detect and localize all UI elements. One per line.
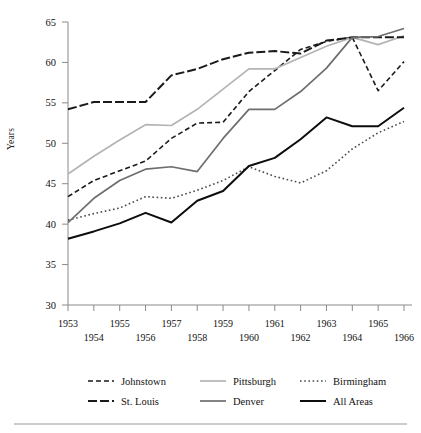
x-tick-label: 1962 <box>291 332 311 343</box>
x-tick-label: 1964 <box>342 332 362 343</box>
y-tick-label: 65 <box>46 17 57 28</box>
chart-legend: JohnstownPittsburghBirminghamSt. LouisDe… <box>88 376 386 407</box>
legend-label-st-louis: St. Louis <box>121 396 159 407</box>
series-line-st-louis <box>68 37 404 109</box>
y-tick-label: 35 <box>46 259 57 270</box>
y-tick-label: 50 <box>46 138 57 149</box>
x-axis-labels: 1953195419551956195719581959196019611962… <box>58 318 414 343</box>
x-tick-label: 1963 <box>316 318 336 329</box>
x-tick-label: 1959 <box>213 318 233 329</box>
x-tick-label: 1965 <box>368 318 388 329</box>
x-tick-label: 1954 <box>84 332 104 343</box>
x-tick-label: 1958 <box>187 332 207 343</box>
legend-label-all-areas: All Areas <box>333 396 373 407</box>
legend-label-denver: Denver <box>233 396 264 407</box>
x-tick-label: 1955 <box>110 318 130 329</box>
x-tick-label: 1957 <box>161 318 181 329</box>
legend-label-pittsburgh: Pittsburgh <box>233 376 277 387</box>
x-tick-label: 1960 <box>239 332 259 343</box>
chart-figure: Years 3035404550556065 19531954195519561… <box>0 0 421 433</box>
legend-label-johnstown: Johnstown <box>121 376 167 387</box>
x-tick-label: 1961 <box>265 318 285 329</box>
y-tick-label: 40 <box>46 219 57 230</box>
x-tick-label: 1966 <box>394 332 414 343</box>
y-axis-ticks: 3035404550556065 <box>46 17 69 311</box>
x-axis-ticks <box>68 305 404 311</box>
x-tick-label: 1953 <box>58 318 78 329</box>
y-tick-label: 30 <box>46 300 57 311</box>
line-chart: 3035404550556065 19531954195519561957195… <box>0 0 421 433</box>
legend-label-birmingham: Birmingham <box>333 376 386 387</box>
y-tick-label: 55 <box>46 97 57 108</box>
y-tick-label: 45 <box>46 178 57 189</box>
series-lines <box>68 28 404 238</box>
y-tick-label: 60 <box>46 57 57 68</box>
x-tick-label: 1956 <box>136 332 156 343</box>
